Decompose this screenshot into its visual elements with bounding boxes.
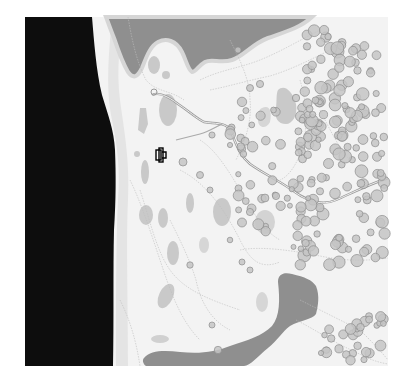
tree: [316, 188, 323, 195]
tree: [379, 228, 390, 239]
tree: [361, 357, 367, 363]
tree: [293, 231, 302, 240]
tree: [237, 143, 245, 151]
tree: [316, 137, 321, 142]
tree: [240, 151, 247, 158]
tree: [276, 139, 286, 149]
tree: [312, 97, 319, 104]
tree: [380, 133, 388, 141]
tree: [372, 109, 380, 117]
tree: [307, 179, 315, 187]
low-area: [151, 335, 169, 343]
tree: [271, 107, 277, 113]
low-area: [159, 94, 177, 126]
tree: [242, 198, 249, 205]
tree: [256, 80, 263, 87]
tree: [336, 234, 343, 241]
tree: [317, 55, 325, 63]
tree: [376, 312, 386, 322]
tree: [256, 111, 265, 120]
tree: [315, 81, 328, 94]
low-area: [199, 237, 209, 253]
tree: [276, 201, 285, 210]
tree: [330, 188, 341, 199]
tree: [344, 56, 355, 67]
tree: [296, 137, 305, 146]
tree: [333, 148, 345, 160]
tree: [329, 116, 341, 128]
tree: [269, 163, 276, 170]
tree: [358, 152, 368, 162]
tree: [293, 221, 302, 230]
tree: [233, 190, 244, 201]
tree: [355, 197, 361, 203]
tree: [345, 324, 356, 335]
tree: [197, 172, 204, 179]
tree: [261, 227, 270, 236]
low-area: [134, 151, 140, 157]
tree: [308, 61, 316, 69]
tree: [238, 115, 244, 121]
tree: [352, 235, 360, 243]
tree: [268, 176, 277, 185]
tree: [247, 267, 253, 273]
tree: [373, 90, 379, 96]
tree: [354, 67, 361, 74]
tree: [379, 150, 385, 156]
tree: [345, 108, 355, 118]
tree: [324, 259, 336, 271]
tree: [366, 69, 374, 77]
low-area: [256, 292, 268, 312]
map-canvas[interactable]: [0, 0, 405, 383]
tree: [343, 77, 353, 87]
tree: [291, 244, 296, 249]
tree: [324, 159, 334, 169]
low-area: [148, 56, 160, 74]
tree: [342, 103, 348, 109]
tree: [345, 246, 351, 252]
tree: [349, 46, 358, 55]
tree: [325, 325, 334, 334]
tree: [375, 340, 386, 351]
tree: [358, 135, 368, 145]
tree: [328, 335, 335, 342]
tree: [360, 247, 369, 256]
low-area: [213, 198, 231, 226]
tree: [361, 347, 370, 356]
tree: [367, 229, 374, 236]
tree: [343, 182, 352, 191]
tree: [377, 170, 384, 177]
tree: [246, 181, 255, 190]
tree: [335, 345, 343, 353]
tree: [370, 133, 377, 140]
tree: [298, 246, 304, 252]
low-area: [141, 160, 149, 184]
tree: [381, 185, 388, 192]
tree: [366, 316, 373, 323]
tree: [360, 42, 369, 51]
tree: [225, 129, 236, 140]
tree: [334, 85, 345, 96]
tree: [179, 158, 187, 166]
tree: [310, 111, 316, 117]
low-area: [167, 241, 179, 265]
tree: [344, 143, 351, 150]
tree: [299, 117, 305, 123]
tree: [249, 122, 255, 128]
low-area: [186, 193, 194, 213]
tree: [262, 136, 271, 145]
tree: [371, 139, 379, 147]
tree: [297, 175, 304, 182]
tree: [272, 192, 279, 199]
tree: [303, 43, 310, 50]
tree: [247, 85, 254, 92]
tree: [296, 202, 306, 212]
tree: [214, 346, 221, 353]
tree: [261, 194, 269, 202]
map-view[interactable]: [0, 0, 405, 383]
tree: [337, 131, 347, 141]
tree: [246, 208, 253, 215]
tree: [306, 196, 311, 201]
tree: [289, 187, 294, 192]
tree: [331, 42, 344, 55]
